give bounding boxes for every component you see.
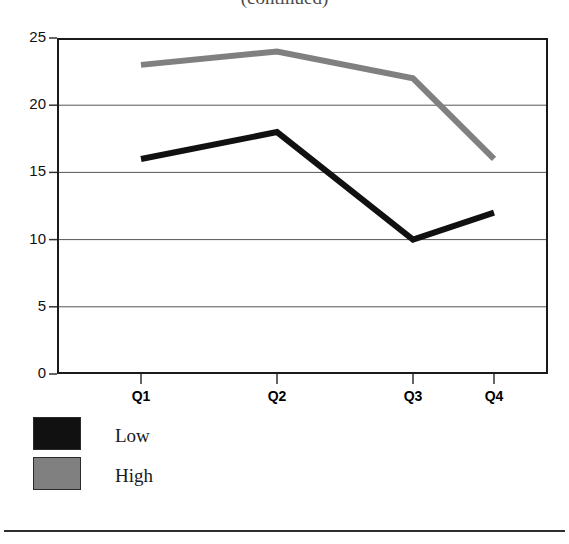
legend-label-low: Low (115, 425, 150, 447)
y-axis-ticks-group (49, 38, 57, 374)
x-axis-label: Q2 (268, 388, 287, 404)
x-axis-label: Q4 (485, 388, 504, 404)
legend-swatch-low (33, 417, 81, 450)
y-axis-label: 15 (10, 162, 46, 179)
footer-divider (4, 530, 565, 532)
legend-swatch-high (33, 457, 81, 490)
y-axis-label: 25 (10, 28, 46, 45)
legend-item-high: High (33, 457, 273, 497)
y-axis-label: 10 (10, 230, 46, 247)
x-axis-ticks-group (141, 374, 494, 384)
series-line-low (141, 132, 494, 240)
chart-figure: 0510152025 Q1Q2Q3Q4 (0, 0, 569, 410)
legend-label-high: High (115, 465, 153, 487)
y-axis-label: 5 (10, 297, 46, 314)
y-axis-label: 20 (10, 95, 46, 112)
chart-legend: Low High (33, 417, 273, 497)
chart-series-layer (0, 0, 569, 410)
x-axis-label: Q3 (404, 388, 423, 404)
legend-item-low: Low (33, 417, 273, 457)
y-axis-label: 0 (10, 364, 46, 381)
x-axis-label: Q1 (132, 388, 151, 404)
data-lines-group (141, 51, 494, 239)
